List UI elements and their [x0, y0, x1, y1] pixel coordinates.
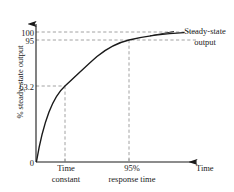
y-tick-label-95: 95: [8, 37, 34, 46]
annotation-steady-state-line1: Steady-state: [178, 27, 232, 36]
x-tick-label-time-constant-line1: Time: [42, 164, 90, 173]
annotation-steady-state-line2: output: [178, 38, 232, 47]
y-tick-label-63-2: 63.2: [6, 83, 34, 92]
x-axis-label: Time: [196, 164, 214, 173]
x-tick-label-response-time-line1: 95%: [106, 164, 158, 173]
first-order-step-response-figure: % steady-state output 100 95 63.2 0 Time…: [0, 0, 234, 192]
origin-label: 0: [22, 159, 34, 168]
x-tick-label-response-time-line2: response time: [100, 175, 164, 184]
step-response-curve: [37, 33, 185, 162]
x-tick-label-time-constant-line2: constant: [42, 175, 90, 184]
